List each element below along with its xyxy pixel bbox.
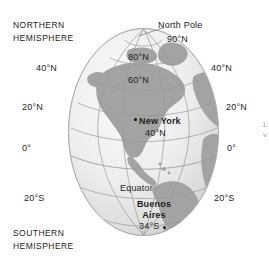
edge-text-fragment-line1: 1: <box>262 120 269 129</box>
northern-hemisphere-label-line2: HEMISPHERE <box>13 33 74 44</box>
latitude-label-left-40n: 40°N <box>36 63 57 74</box>
city-latitude-new-york: 40°N <box>145 128 166 139</box>
city-label-buenos-aires-line1: Buenos <box>131 199 177 210</box>
equator-label: Equator <box>120 183 153 194</box>
latitude-label-left-0: 0° <box>22 143 31 154</box>
city-latitude-buenos-aires: 34°S <box>139 221 159 232</box>
latitude-label-right-20s: 20°S <box>214 193 234 204</box>
globe-figure: NORTHERN HEMISPHERE SOUTHERN HEMISPHERE … <box>0 0 269 266</box>
latitude-label-80n: 80°N <box>128 52 149 63</box>
city-marker-buenos-aires <box>163 226 166 229</box>
city-label-new-york: New York <box>139 116 181 127</box>
latitude-label-left-20s: 20°S <box>24 193 44 204</box>
latitude-label-60n: 60°N <box>128 75 149 86</box>
edge-text-fragment-line2: v <box>263 130 267 139</box>
latitude-label-90n: 90°N <box>167 34 188 45</box>
northern-hemisphere-label-line1: NORTHERN <box>13 20 65 31</box>
latitude-label-right-0: 0° <box>227 143 236 154</box>
southern-hemisphere-label-line1: SOUTHERN <box>13 228 64 239</box>
city-marker-new-york <box>134 118 137 121</box>
latitude-label-left-20n: 20°N <box>22 102 43 113</box>
landmass-caribbean-2 <box>168 172 171 175</box>
north-pole-label: North Pole <box>158 20 203 31</box>
latitude-label-right-20n: 20°N <box>226 102 247 113</box>
latitude-label-right-40n: 40°N <box>211 63 232 74</box>
southern-hemisphere-label-line2: HEMISPHERE <box>13 241 74 252</box>
city-label-buenos-aires-line2: Aires <box>131 210 177 221</box>
